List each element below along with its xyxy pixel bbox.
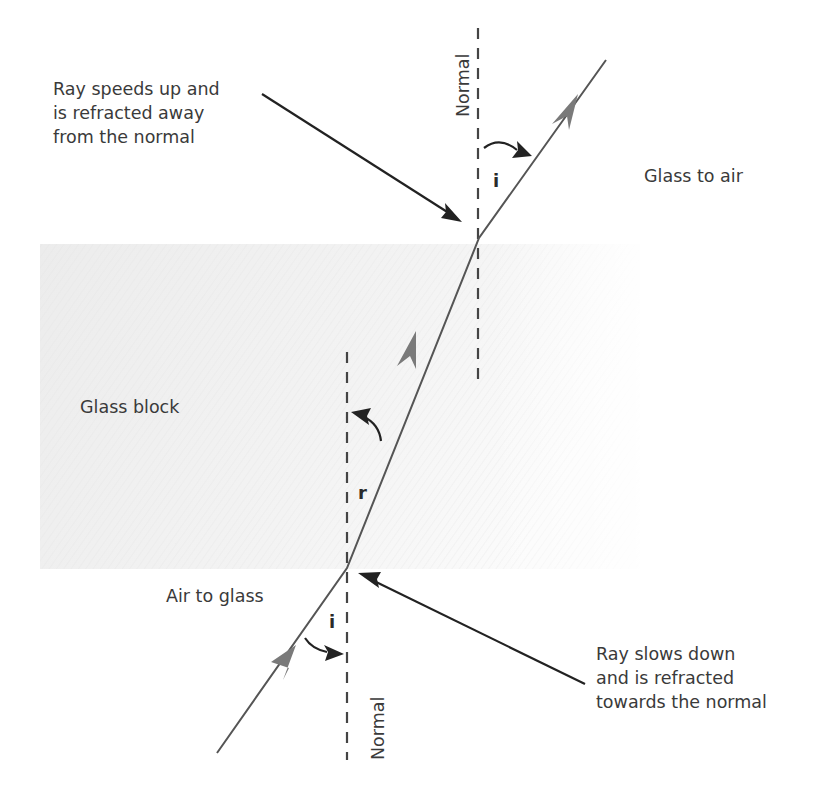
top-normal-label: Normal [453,54,473,117]
glass-to-air-label: Glass to air [644,164,743,188]
pointer-arrow-slows-down [358,572,585,684]
angle-arc-bottom-i-icon [305,638,344,661]
angle-arc-top-i-icon [484,141,532,158]
bottom-normal-label: Normal [368,697,388,760]
annotation-line: towards the normal [596,690,767,714]
annotation-line: from the normal [53,125,220,149]
angle-label-bottom-i: i [329,611,335,632]
glass-block-label: Glass block [80,395,179,419]
refraction-diagram: Ray speeds up and is refracted away from… [0,0,831,803]
annotation-line: is refracted away [53,101,220,125]
annotation-line: and is refracted [596,666,767,690]
angle-label-top-i: i [493,170,499,191]
angle-label-r: r [358,482,367,503]
pointer-arrow-speeds-up [262,94,462,222]
annotation-line: Ray slows down [596,642,767,666]
air-to-glass-label: Air to glass [166,584,264,608]
annotation-speeds-up: Ray speeds up and is refracted away from… [53,77,220,149]
annotation-line: Ray speeds up and [53,77,220,101]
annotation-slows-down: Ray slows down and is refracted towards … [596,642,767,714]
